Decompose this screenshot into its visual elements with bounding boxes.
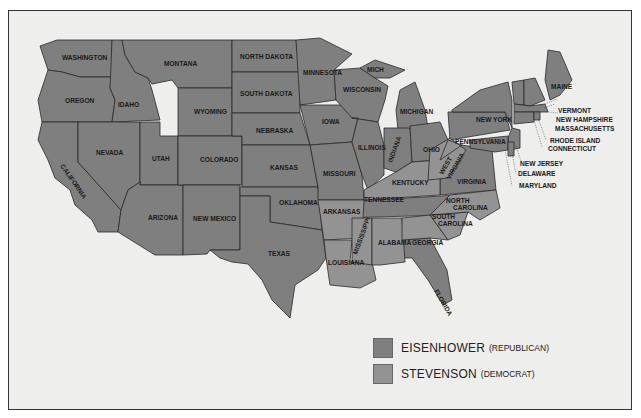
- label-or: OREGON: [65, 97, 95, 104]
- state-connecticut: [514, 112, 534, 124]
- label-tx: TEXAS: [268, 250, 291, 257]
- state-michigan: [396, 82, 428, 130]
- label-ma: MASSACHUSETTS: [555, 125, 615, 132]
- legend-party: (REPUBLICAN): [489, 343, 549, 353]
- label-mo: MISSOURI: [323, 170, 356, 177]
- label-ne: NEBRASKA: [256, 127, 294, 134]
- label-il: ILLINOIS: [358, 144, 386, 151]
- label-mn: MINNESOTA: [303, 69, 342, 76]
- label-pa: PENNSYLVANIA: [455, 138, 506, 145]
- label-wy: WYOMING: [194, 108, 227, 115]
- label-nc2: CAROLINA: [453, 204, 488, 211]
- label-la: LOUISIANA: [328, 259, 365, 266]
- label-de: DELAWARE: [518, 170, 556, 177]
- label-nv: NEVADA: [96, 149, 124, 156]
- label-az: ARIZONA: [148, 214, 178, 221]
- legend-swatch-eisenhower: [373, 338, 393, 358]
- label-id: IDAHO: [118, 101, 139, 108]
- state-oregon: [38, 70, 115, 122]
- label-mi: MICHIGAN: [400, 108, 434, 115]
- label-sc1: SOUTH: [432, 213, 455, 220]
- legend: EISENHOWER (REPUBLICAN) STEVENSON (DEMOC…: [373, 335, 549, 387]
- label-nh: NEW HAMPSHIRE: [556, 116, 613, 123]
- label-ok: OKLAHOMA: [279, 199, 318, 206]
- state-new-hampshire: [524, 78, 545, 106]
- state-florida: [402, 238, 452, 305]
- label-co: COLORADO: [200, 156, 238, 163]
- state-utah: [140, 122, 178, 185]
- label-mi-up: MICH: [367, 66, 384, 73]
- label-wa: WASHINGTON: [62, 54, 108, 61]
- label-tn: TENNESSEE: [364, 196, 405, 203]
- label-ct: CONNECTICUT: [548, 145, 596, 152]
- label-ga: GEORGIA: [412, 239, 443, 246]
- legend-party: (DEMOCRAT): [481, 369, 535, 379]
- label-ky: KENTUCKY: [392, 179, 429, 186]
- state-delaware: [508, 142, 514, 156]
- legend-item-stevenson: STEVENSON (DEMOCRAT): [373, 361, 549, 387]
- label-sc2: CAROLINA: [438, 220, 473, 227]
- state-rhode-island: [534, 112, 540, 120]
- legend-swatch-stevenson: [373, 364, 393, 384]
- label-sd: SOUTH DAKOTA: [240, 90, 293, 97]
- label-al: ALABAMA: [378, 239, 412, 246]
- label-ks: KANSAS: [270, 164, 298, 171]
- label-ny: NEW YORK: [476, 116, 512, 123]
- label-nc1: NORTH: [446, 197, 470, 204]
- label-mt: MONTANA: [164, 60, 197, 67]
- label-nm: NEW MEXICO: [193, 215, 236, 222]
- state-vermont: [512, 80, 524, 105]
- label-ri: RHODE ISLAND: [550, 137, 600, 144]
- label-nd: NORTH DAKOTA: [240, 53, 293, 60]
- label-wi: WISCONSIN: [343, 86, 381, 93]
- label-va: VIRGINIA: [457, 178, 487, 185]
- label-md: MARYLAND: [519, 182, 557, 189]
- label-nj: NEW JERSEY: [520, 160, 564, 167]
- legend-candidate: EISENHOWER: [401, 341, 485, 355]
- legend-item-eisenhower: EISENHOWER (REPUBLICAN): [373, 335, 549, 361]
- label-ia: IOWA: [322, 118, 340, 125]
- label-vt: VERMONT: [558, 107, 591, 114]
- label-ut: UTAH: [152, 155, 170, 162]
- state-maine: [545, 50, 572, 100]
- label-me: MAINE: [551, 83, 573, 90]
- label-oh: OHIO: [423, 146, 440, 153]
- label-ar: ARKANSAS: [323, 208, 361, 215]
- legend-candidate: STEVENSON: [401, 367, 477, 381]
